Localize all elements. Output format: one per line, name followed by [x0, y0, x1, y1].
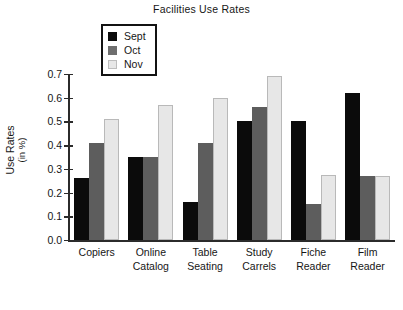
x-category-label: Copiers — [70, 246, 124, 273]
legend-label: Sept — [124, 30, 146, 42]
y-tick-mark — [64, 240, 73, 241]
bar-group — [70, 74, 124, 240]
x-axis-line — [68, 240, 395, 242]
plot-area: 0.70.60.50.40.30.20.10.0 — [68, 74, 395, 240]
bar-group — [341, 74, 395, 240]
bar-groups — [70, 74, 395, 240]
bar-nov-film-reader — [375, 176, 390, 240]
x-category-label-line: Fiche — [286, 246, 340, 260]
bar-oct-copiers — [89, 143, 104, 240]
y-tick-label: 0.3 — [47, 163, 62, 175]
x-category-label-line: Copiers — [70, 246, 124, 260]
x-category-label-line: Reader — [286, 260, 340, 274]
bar-oct-table-seating — [198, 143, 213, 240]
x-axis-category-labels: CopiersOnlineCatalogTableSeatingStudyCar… — [70, 246, 395, 273]
bar-group — [124, 74, 178, 240]
bar-sept-copiers — [74, 178, 89, 240]
x-category-label-line: Online — [124, 246, 178, 260]
bar-nov-online-catalog — [158, 105, 173, 240]
x-category-label-line: Table — [178, 246, 232, 260]
bar-oct-study-carrels — [252, 107, 267, 240]
x-category-label: TableSeating — [178, 246, 232, 273]
bar-oct-fiche-reader — [306, 204, 321, 240]
y-tick-label: 0.1 — [47, 210, 62, 222]
bar-sept-study-carrels — [237, 121, 252, 240]
bar-nov-fiche-reader — [321, 175, 336, 240]
x-category-label-line: Seating — [178, 260, 232, 274]
x-category-label: FilmReader — [340, 246, 394, 273]
y-tick-label: 0.6 — [47, 92, 62, 104]
y-tick-label: 0.5 — [47, 115, 62, 127]
legend-label: Nov — [124, 58, 143, 70]
x-category-label-line: Film — [340, 246, 394, 260]
legend-swatch-nov-icon — [108, 60, 117, 69]
legend-item-nov[interactable]: Nov — [108, 57, 146, 71]
y-tick-label: 0.2 — [47, 187, 62, 199]
bar-chart: Facilities Use Rates Use Rates (in %) 0.… — [0, 0, 403, 310]
bar-nov-study-carrels — [267, 76, 282, 240]
x-category-label: FicheReader — [286, 246, 340, 273]
y-tick-label: 0.4 — [47, 139, 62, 151]
x-category-label-line: Reader — [340, 260, 394, 274]
legend-swatch-oct-icon — [108, 46, 117, 55]
legend-item-oct[interactable]: Oct — [108, 43, 146, 57]
y-tick-label: 0.0 — [47, 234, 62, 246]
y-tick-label: 0.7 — [47, 68, 62, 80]
x-category-label-line: Catalog — [124, 260, 178, 274]
legend-label: Oct — [124, 44, 140, 56]
chart-title: Facilities Use Rates — [0, 3, 403, 15]
bar-group — [178, 74, 232, 240]
bar-oct-film-reader — [360, 176, 375, 240]
bar-sept-fiche-reader — [291, 121, 306, 240]
bar-group — [287, 74, 341, 240]
y-axis-label: Use Rates (in %) — [5, 95, 27, 205]
bar-sept-film-reader — [345, 93, 360, 240]
y-axis-label-line2: (in %) — [16, 125, 28, 174]
bar-nov-copiers — [104, 119, 119, 240]
legend-swatch-sept-icon — [108, 32, 117, 41]
x-category-label-line: Carrels — [232, 260, 286, 274]
bar-sept-table-seating — [183, 202, 198, 240]
x-category-label-line: Study — [232, 246, 286, 260]
chart-legend: SeptOctNov — [101, 24, 157, 76]
bar-nov-table-seating — [213, 98, 228, 240]
legend-item-sept[interactable]: Sept — [108, 29, 146, 43]
bar-oct-online-catalog — [143, 157, 158, 240]
y-axis-label-line1: Use Rates — [4, 125, 16, 174]
bar-sept-online-catalog — [128, 157, 143, 240]
x-category-label: OnlineCatalog — [124, 246, 178, 273]
x-category-label: StudyCarrels — [232, 246, 286, 273]
bar-group — [232, 74, 286, 240]
